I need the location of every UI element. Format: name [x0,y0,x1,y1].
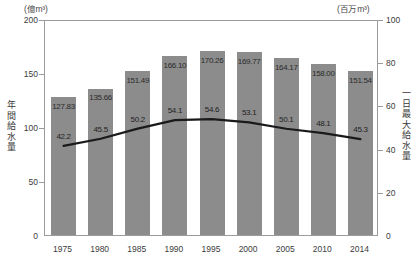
bar [162,56,187,235]
right-axis-tick-label: 40 [386,145,414,155]
bar-value-label: 169.77 [229,57,269,66]
bar [200,51,225,235]
right-axis-unit-caption: (百万m³) [337,2,369,14]
line-value-label: 54.6 [192,105,232,114]
bar [311,64,336,235]
right-axis-tick-mark [378,150,383,151]
left-axis-unit-caption: (億m³) [24,2,48,14]
line-value-label: 42.2 [44,132,84,141]
right-axis-tick-label: 20 [386,188,414,198]
right-axis-tick-mark [378,106,383,107]
bar [237,52,262,235]
x-axis-tick-label: 1975 [43,244,83,254]
right-axis-tick-label: 0 [386,231,414,241]
bar [274,58,299,235]
bar-value-label: 151.49 [118,76,158,85]
right-axis-tick-label: 60 [386,101,414,111]
left-axis-tick-label: 0 [10,231,38,241]
line-value-label: 45.5 [81,125,121,134]
chart-figure: (億m³) (百万m³) 年間給水量 一日最大給水量 050100150200 … [0,0,418,264]
line-value-label: 50.1 [266,115,306,124]
plot-area: 127.83135.66151.49166.10170.26169.77164.… [44,20,378,236]
bar [88,89,113,236]
left-axis-tick-label: 100 [10,123,38,133]
bar-value-label: 127.83 [44,102,84,111]
bar-value-label: 164.17 [266,63,306,72]
x-axis-tick-label: 1990 [154,244,194,254]
bar [125,71,150,235]
bar-value-label: 151.54 [340,76,380,85]
right-axis-tick-label: 80 [386,58,414,68]
bar [51,97,76,235]
x-axis-tick-label: 2000 [228,244,268,254]
right-axis-tick-label: 100 [386,15,414,25]
right-axis-tick-mark [378,20,383,21]
x-axis-tick-label: 2005 [265,244,305,254]
x-axis-tick-label: 2010 [302,244,342,254]
line-value-label: 53.1 [229,108,269,117]
right-axis-tick-mark [378,193,383,194]
line-value-label: 54.1 [155,106,195,115]
x-axis-tick-label: 1985 [117,244,157,254]
x-axis-tick-label: 1980 [80,244,120,254]
bar-value-label: 158.00 [303,69,343,78]
line-value-label: 50.2 [118,115,158,124]
x-axis-tick-label: 1995 [191,244,231,254]
left-axis-tick-label: 50 [10,177,38,187]
left-axis-tick-label: 200 [10,15,38,25]
line-value-label: 48.1 [303,119,343,128]
x-axis-tick-label: 2014 [339,244,379,254]
bar-value-label: 135.66 [81,93,121,102]
bar-value-label: 166.10 [155,61,195,70]
bar [348,71,373,235]
line-value-label: 45.3 [340,125,380,134]
left-axis-tick-label: 150 [10,69,38,79]
bar-value-label: 170.26 [192,56,232,65]
right-axis-tick-mark [378,63,383,64]
